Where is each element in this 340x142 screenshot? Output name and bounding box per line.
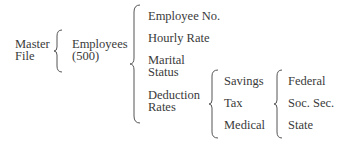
hierarchy-diagram: Master File Employees (500) Employee No.… [0, 0, 340, 142]
brace-root [54, 30, 62, 72]
field-hourly-rate: Hourly Rate [148, 32, 209, 44]
deduction-tax: Tax [224, 97, 243, 109]
field-marital-status-line2: Status [148, 66, 179, 78]
brace-tax [274, 70, 282, 138]
brace-deduction-rates [209, 70, 218, 138]
root-label-line2: File [15, 50, 34, 62]
tax-state: State [288, 119, 313, 131]
field-employee-no: Employee No. [148, 10, 220, 22]
deduction-savings: Savings [224, 75, 264, 87]
deduction-medical: Medical [224, 119, 265, 131]
tax-federal: Federal [288, 75, 325, 87]
brace-employees [130, 5, 140, 123]
employees-label-line2: (500) [72, 50, 99, 62]
field-deduction-rates-line2: Rates [148, 101, 176, 113]
tax-soc-sec: Soc. Sec. [288, 97, 334, 109]
